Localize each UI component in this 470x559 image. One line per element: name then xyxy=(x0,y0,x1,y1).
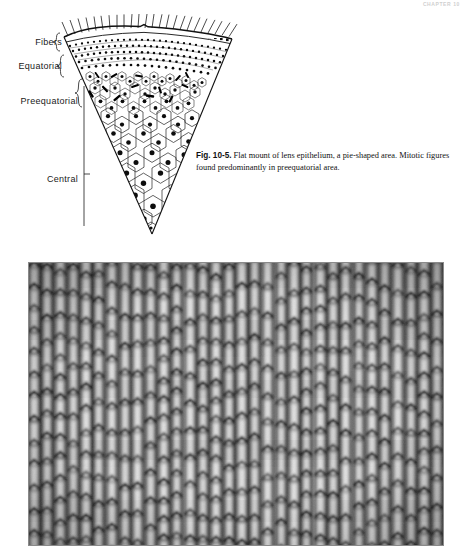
figure-page: CHAPTER 10 xyxy=(0,0,470,559)
zone-label-central: Central xyxy=(30,174,78,184)
equatorial-dense-nuclei xyxy=(69,39,228,75)
fibers-nuclei-row xyxy=(70,29,229,41)
lens-epithelium-wedge-diagram: Fibers Equatorial Preequatorial Central xyxy=(0,6,250,246)
wedge-left-edge xyxy=(64,37,152,234)
photomicrograph-svg xyxy=(28,262,444,546)
figure-caption-text: Flat mount of lens epithelium, a pie-sha… xyxy=(196,151,449,172)
preequatorial-zone xyxy=(86,72,206,115)
fiber-hatch-lines xyxy=(62,14,237,37)
zone-label-fibers: Fibers xyxy=(6,37,62,47)
zone-label-equatorial: Equatorial xyxy=(2,61,62,71)
central-zone xyxy=(101,108,199,234)
figure-number: Fig. 10-5. xyxy=(196,151,232,160)
lens-fibers-photomicrograph xyxy=(28,262,444,546)
zone-label-preequatorial: Preequatorial xyxy=(0,96,78,106)
running-head: CHAPTER 10 xyxy=(423,1,460,7)
figure-caption: Fig. 10-5. Flat mount of lens epithelium… xyxy=(196,150,464,173)
central-hex-mesh xyxy=(101,108,199,234)
